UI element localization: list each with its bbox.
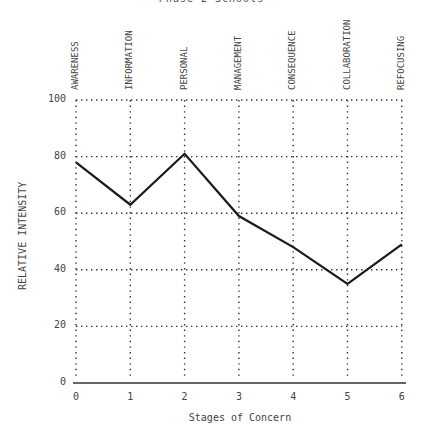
x-tick-4: 4 bbox=[286, 391, 300, 402]
y-tick-80: 80 bbox=[42, 150, 66, 161]
x-tick-5: 5 bbox=[341, 391, 355, 402]
x-tick-6: 6 bbox=[395, 391, 409, 402]
x-axis-label: Stages of Concern bbox=[0, 412, 423, 423]
x-tick-1: 1 bbox=[123, 391, 137, 402]
y-axis-label: RELATIVE INTENSITY bbox=[17, 182, 28, 290]
x-tick-3: 3 bbox=[232, 391, 246, 402]
dotted-grid bbox=[76, 100, 402, 379]
x-tick-0: 0 bbox=[69, 391, 83, 402]
y-tick-60: 60 bbox=[42, 206, 66, 217]
x-tick-2: 2 bbox=[178, 391, 192, 402]
y-tick-20: 20 bbox=[42, 319, 66, 330]
y-tick-40: 40 bbox=[42, 263, 66, 274]
y-tick-0: 0 bbox=[42, 376, 66, 387]
y-tick-100: 100 bbox=[42, 93, 66, 104]
